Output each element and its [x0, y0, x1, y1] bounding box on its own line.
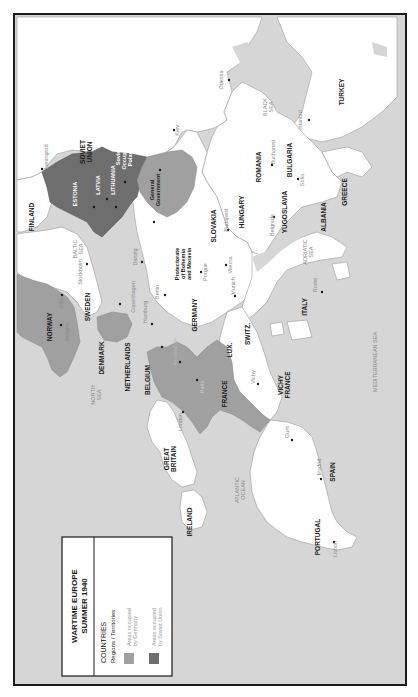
label-latvia: LATVIA	[95, 175, 101, 194]
legend-swatch-soviet	[149, 653, 159, 664]
legend-swatch-germany	[124, 653, 134, 664]
city-prague: Prague	[202, 263, 208, 281]
label-spain: SPAIN	[329, 462, 336, 482]
city-danzig: Danzig	[132, 248, 138, 265]
label-hungary: HUNGARY	[238, 195, 245, 228]
city-amsterdam: Amsterdam	[172, 338, 178, 367]
label-slovakia: SLOVAKIA	[210, 209, 217, 242]
label-sweden: SWEDEN	[84, 292, 91, 321]
city-hamburg: Hamburg	[142, 301, 148, 324]
city-copenhagen: Copenhagen	[130, 281, 136, 313]
label-albania: ALBANIA	[320, 202, 327, 232]
city-sofia: Sofia	[299, 173, 305, 186]
map-frame: SOVIETUNION FINLAND ESTONIA LATVIA LITHU…	[13, 13, 407, 686]
label-romania: ROMANIA	[255, 151, 262, 182]
label-bulgaria: BULGARIA	[286, 143, 293, 178]
city-stockholm: Stockholm	[77, 259, 83, 285]
city-leningrad: Leningrad	[43, 145, 49, 169]
label-netherlands: NETHERLANDS	[124, 342, 131, 392]
city-madrid: Madrid	[316, 459, 322, 476]
city-gurs: Gurs	[284, 426, 290, 438]
city-istanbul: Istanbul	[297, 110, 303, 129]
city-oslo: Oslo	[58, 297, 64, 308]
label-estonia: ESTONIA	[72, 182, 78, 206]
label-soviet-union: SOVIETUNION	[79, 140, 93, 164]
label-germany: GERMANY	[191, 298, 198, 332]
label-lithuania: LITHUANIA	[110, 165, 116, 195]
label-great-britain: GREATBRITAIN	[163, 446, 177, 472]
legend-label-soviet: Areas occupiedby Soviet Union	[151, 607, 163, 646]
label-greece: GREECE	[341, 178, 348, 206]
label-luxembourg: LUX.	[226, 342, 233, 357]
city-berlin: Berlin	[154, 285, 160, 299]
city-vienna: Vienna	[227, 256, 233, 274]
label-finland: FINLAND	[28, 202, 35, 231]
city-bergen: Bergen	[64, 323, 70, 341]
corsica	[270, 322, 284, 336]
label-atlantic-ocean: ATLANTICOCEAN	[234, 477, 246, 503]
city-lisbon: Lisbon	[332, 541, 338, 557]
label-italy: ITALY	[301, 297, 308, 315]
label-ireland: IRELAND	[186, 507, 193, 536]
label-france: FRANCE	[221, 380, 228, 408]
label-yugoslavia: YUGOSLAVIA	[281, 190, 288, 233]
city-budapest: Budapest	[223, 208, 229, 232]
city-bucharest: Bucharest	[270, 139, 276, 164]
label-norway: NORWAY	[46, 312, 53, 341]
city-london: London	[177, 413, 183, 431]
label-mediterranean-sea: MEDITERRANEAN SEA	[372, 332, 378, 393]
city-paris: Paris	[199, 380, 205, 393]
label-belgium: BELGIUM	[144, 365, 151, 395]
legend-regions-label: Regions / Territories	[110, 610, 116, 663]
label-protectorate: Protectorateof Bohemiaand Moravia	[174, 247, 192, 280]
legend-countries-label: COUNTRIES	[100, 621, 107, 663]
city-munich: Munich	[230, 277, 236, 295]
city-odessa: Odessa	[218, 70, 224, 90]
city-rome: Rome	[312, 278, 318, 293]
legend-title: WARTIME EUROPESUMMER 1940	[70, 568, 89, 642]
city-kiev: Kiev	[174, 125, 180, 136]
label-portugal: PORTUGAL	[314, 519, 321, 556]
map-legend: WARTIME EUROPESUMMER 1940 COUNTRIES Regi…	[61, 536, 173, 677]
label-switzerland: SWITZ.	[244, 323, 251, 345]
city-vichy: Vichy	[250, 370, 256, 384]
city-belgrade: Belgrade	[269, 214, 275, 236]
label-turkey: TURKEY	[338, 78, 345, 105]
label-denmark: DENMARK	[98, 341, 105, 375]
